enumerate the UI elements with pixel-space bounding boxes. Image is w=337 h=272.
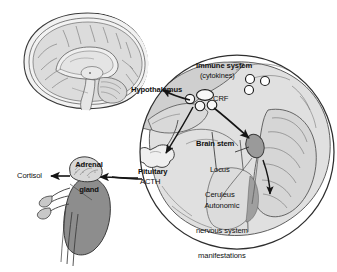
- label-autonomic-line1: Autonomic: [196, 202, 248, 210]
- label-autonomic-line2: nervous system: [196, 227, 248, 235]
- diagram-canvas: [0, 0, 337, 272]
- label-brain-stem: Brain stem: [196, 140, 234, 148]
- label-immune-system: Immune system: [196, 62, 252, 70]
- label-pituitary: Pituitary: [138, 168, 167, 176]
- label-cytokines: (cytokines): [200, 72, 235, 80]
- label-cortisol: Cortisol: [17, 172, 42, 180]
- label-acth: ACTH: [140, 178, 160, 186]
- label-hypothalamus: Hypothalamus: [131, 86, 182, 94]
- label-autonomic-line3: manifestations: [196, 252, 248, 260]
- label-adrenal-line2: gland: [66, 186, 112, 194]
- stress-response-diagram: Hypothalamus Immune system (cytokines) C…: [0, 0, 337, 272]
- label-autonomic-manifestations: Autonomic nervous system manifestations: [196, 186, 248, 272]
- label-crf: CRF: [213, 95, 228, 103]
- label-locus-line1: Locus: [205, 166, 235, 174]
- label-adrenal-gland: Adrenal gland: [66, 145, 112, 211]
- sagittal-brain-inset: [24, 13, 149, 113]
- label-adrenal-line1: Adrenal: [66, 161, 112, 169]
